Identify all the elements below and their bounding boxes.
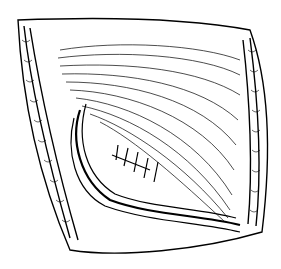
muscle-fibers	[58, 45, 240, 222]
skin-edge	[18, 18, 267, 253]
surgical-illustration	[0, 0, 281, 269]
sutures	[112, 145, 158, 182]
